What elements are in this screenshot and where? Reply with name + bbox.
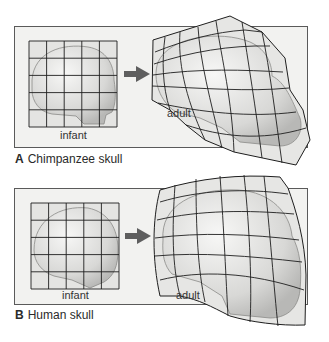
panel-b-infant-label: infant: [62, 289, 89, 301]
panel-a-caption: AChimpanzee skull: [15, 152, 122, 166]
panel-b-infant-grid: [31, 203, 119, 289]
panel-a-title: Chimpanzee skull: [28, 152, 123, 166]
panel-b: [15, 175, 308, 326]
panel-a: [15, 16, 311, 165]
panel-a-infant-label: infant: [60, 129, 87, 141]
panel-b-caption: BHuman skull: [15, 308, 94, 322]
panel-b-title: Human skull: [28, 308, 94, 322]
skull-transformation-figure: infant adult AChimpanzee skull infant ad…: [0, 0, 329, 342]
panel-b-letter: B: [15, 308, 24, 322]
panel-a-adult-label: adult: [167, 107, 191, 119]
panel-b-adult-label: adult: [176, 289, 200, 301]
figure-illustration: [0, 0, 329, 342]
panel-a-letter: A: [15, 152, 24, 166]
panel-a-infant-grid: [29, 41, 117, 127]
